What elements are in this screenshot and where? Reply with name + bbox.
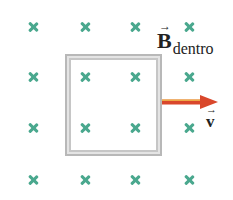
field-cross-icon: [184, 175, 194, 185]
vector-arrow-icon: →: [206, 103, 217, 115]
velocity-symbol: →v: [206, 112, 215, 131]
field-subscript: dentro: [173, 40, 214, 57]
field-cross-icon: [184, 123, 194, 133]
field-cross-icon: [184, 72, 194, 82]
field-cross-icon: [28, 123, 38, 133]
field-label: →Bdentro: [157, 28, 214, 54]
velocity-label: →v: [206, 112, 215, 132]
field-cross-icon: [130, 22, 140, 32]
vector-arrow-icon: →: [159, 19, 171, 34]
field-cross-icon: [28, 72, 38, 82]
field-cross-icon: [28, 175, 38, 185]
field-cross-icon: [130, 175, 140, 185]
field-cross-icon: [80, 22, 90, 32]
field-symbol: →B: [157, 28, 172, 53]
conducting-loop: [65, 54, 162, 156]
field-cross-icon: [80, 175, 90, 185]
field-cross-icon: [28, 22, 38, 32]
diagram-canvas: →Bdentro →v: [0, 0, 233, 200]
